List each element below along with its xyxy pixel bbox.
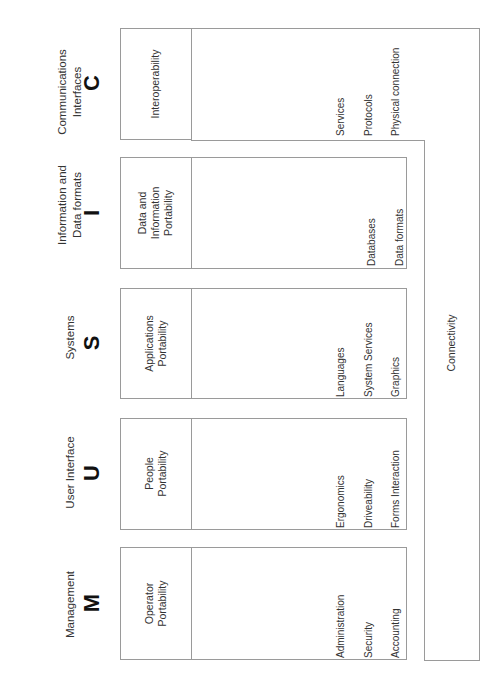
frame-bottom-edge: [424, 660, 480, 661]
letter-m: M: [79, 591, 105, 615]
portability-line: Information: [149, 158, 162, 268]
item-security: Security: [363, 568, 375, 658]
portability-line: Portability: [156, 549, 169, 659]
item-forms-interaction: Forms Interaction: [390, 438, 402, 528]
portability-label-people: People Portability: [143, 419, 170, 529]
item-services: Services: [335, 46, 347, 136]
item-accounting: Accounting: [390, 568, 402, 658]
portability-label-operator: Operator Portability: [143, 549, 170, 659]
item-languages: Languages: [335, 307, 347, 397]
frame-inner-bottom-edge: [191, 140, 425, 141]
item-graphics: Graphics: [390, 307, 402, 397]
item-ergonomics: Ergonomics: [335, 438, 347, 528]
portability-line: Portability: [162, 158, 175, 268]
portability-line: Portability: [156, 289, 169, 399]
category-line: Management: [63, 550, 78, 660]
category-label-user-interface: User Interface: [63, 418, 78, 528]
letter-c: C: [79, 71, 105, 95]
frame-inner-left-edge: [424, 140, 425, 661]
category-line: Systems: [63, 283, 78, 393]
portability-line: Applications: [143, 289, 156, 399]
portability-label-interoperability: Interoperability: [149, 29, 163, 139]
item-databases: Databases: [366, 176, 378, 266]
category-line: Communications: [55, 37, 70, 147]
letter-i: I: [79, 201, 105, 225]
portability-line: Operator: [143, 549, 156, 659]
item-data-formats: Data formats: [394, 176, 406, 266]
letter-u: U: [79, 461, 105, 485]
category-label-systems: Systems: [63, 283, 78, 393]
portability-line: Interoperability: [149, 29, 162, 139]
divider: [191, 157, 192, 269]
frame-top-edge: [191, 28, 480, 29]
divider: [191, 418, 192, 530]
category-line: User Interface: [63, 418, 78, 528]
item-administration: Administration: [335, 568, 347, 658]
item-driveability: Driveability: [363, 438, 375, 528]
category-label-management: Management: [63, 550, 78, 660]
connectivity-label: Connectivity: [445, 293, 459, 393]
portability-line: Data and: [136, 158, 149, 268]
item-system-services: System Services: [363, 307, 375, 397]
portability-line: People: [143, 419, 156, 529]
divider: [191, 547, 192, 660]
category-line: Information and: [55, 150, 70, 260]
portability-line: Portability: [156, 419, 169, 529]
frame-right-edge: [479, 28, 480, 661]
portability-label-data-information: Data and Information Portability: [136, 158, 176, 268]
divider: [191, 288, 192, 399]
item-protocols: Protocols: [363, 46, 375, 136]
item-physical-connection: Physical connection: [390, 46, 402, 136]
letter-s: S: [79, 331, 105, 355]
portability-label-applications: Applications Portability: [143, 289, 170, 399]
